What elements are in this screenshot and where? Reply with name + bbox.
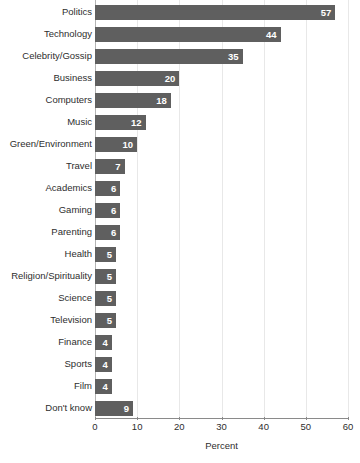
bar-value-label: 57 [321,5,332,20]
category-label: Film [0,378,92,393]
bar-value-label: 44 [266,27,277,42]
bar-row: Computers18 [0,93,360,108]
category-label: Computers [0,92,92,107]
bar-value-label: 6 [111,181,116,196]
bar: 6 [95,203,120,218]
x-tick-label-40: 40 [244,420,284,434]
bar-row: Don't know9 [0,401,360,416]
bar-value-label: 35 [228,49,239,64]
bar-value-label: 4 [103,335,108,350]
bar-row: Parenting6 [0,225,360,240]
bar-value-label: 18 [156,93,167,108]
bar-row: Technology44 [0,27,360,42]
category-label: Science [0,290,92,305]
bar-rows: Politics57Technology44Celebrity/Gossip35… [0,0,360,418]
category-label: Parenting [0,224,92,239]
x-tick-label-0: 0 [75,420,115,434]
bar-chart: Politics57Technology44Celebrity/Gossip35… [0,0,360,463]
bar: 10 [95,137,137,152]
bar: 57 [95,5,335,20]
bar: 5 [95,291,116,306]
bar: 12 [95,115,146,130]
bar-row: Health5 [0,247,360,262]
category-label: Celebrity/Gossip [0,48,92,63]
bar-row: Gaming6 [0,203,360,218]
category-label: Academics [0,180,92,195]
bar-value-label: 5 [107,247,112,262]
bar-row: Celebrity/Gossip35 [0,49,360,64]
bar: 7 [95,159,125,174]
bar-value-label: 4 [103,357,108,372]
bar-row: Politics57 [0,5,360,20]
bar-value-label: 10 [123,137,134,152]
bar-value-label: 5 [107,269,112,284]
category-label: Technology [0,26,92,41]
bar-row: Science5 [0,291,360,306]
bar: 4 [95,357,112,372]
bar: 35 [95,49,243,64]
bar-row: Sports4 [0,357,360,372]
bar: 9 [95,401,133,416]
bar: 20 [95,71,179,86]
bar: 44 [95,27,281,42]
bar-row: Religion/Spirituality5 [0,269,360,284]
bar-row: Television5 [0,313,360,328]
category-label: Health [0,246,92,261]
bar-value-label: 12 [131,115,142,130]
bar: 18 [95,93,171,108]
x-tick-label-10: 10 [117,420,157,434]
bar: 5 [95,269,116,284]
bar-value-label: 6 [111,225,116,240]
bar: 6 [95,225,120,240]
bar-row: Film4 [0,379,360,394]
bar-value-label: 4 [103,379,108,394]
bar-row: Green/Environment10 [0,137,360,152]
category-label: Travel [0,158,92,173]
bar: 4 [95,379,112,394]
bar-value-label: 5 [107,291,112,306]
x-tick-label-50: 50 [286,420,326,434]
x-axis-ticks: 0102030405060 [0,420,360,436]
x-tick-label-20: 20 [159,420,199,434]
bar-row: Academics6 [0,181,360,196]
bar-row: Finance4 [0,335,360,350]
x-tick-label-60: 60 [328,420,360,434]
bar-value-label: 9 [124,401,129,416]
category-label: Business [0,70,92,85]
x-axis-title: Percent [95,440,348,451]
category-label: Finance [0,334,92,349]
category-label: Television [0,312,92,327]
category-label: Gaming [0,202,92,217]
bar: 6 [95,181,120,196]
bar-row: Music12 [0,115,360,130]
category-label: Sports [0,356,92,371]
bar-value-label: 20 [165,71,176,86]
category-label: Don't know [0,400,92,415]
bar: 5 [95,313,116,328]
bar-value-label: 5 [107,313,112,328]
bar: 5 [95,247,116,262]
category-label: Politics [0,4,92,19]
bar: 4 [95,335,112,350]
bar-row: Business20 [0,71,360,86]
bar-value-label: 6 [111,203,116,218]
category-label: Green/Environment [0,136,92,151]
category-label: Religion/Spirituality [0,268,92,283]
bar-row: Travel7 [0,159,360,174]
bar-value-label: 7 [115,159,120,174]
category-label: Music [0,114,92,129]
x-tick-label-30: 30 [202,420,242,434]
